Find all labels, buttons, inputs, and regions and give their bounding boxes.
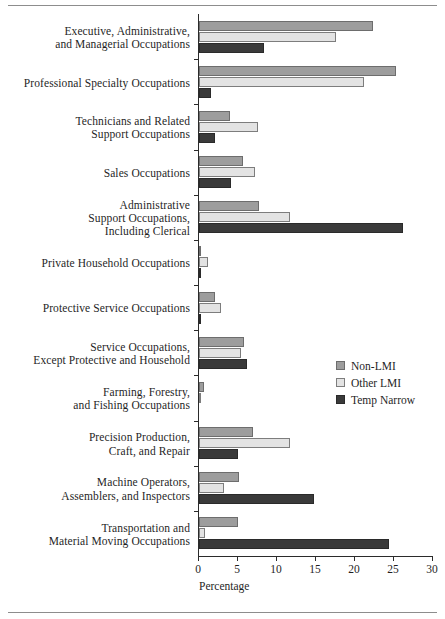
bar xyxy=(199,517,238,527)
category-label: Technicians and RelatedSupport Occupatio… xyxy=(5,115,190,142)
x-axis-tick-label: 0 xyxy=(183,563,213,575)
x-axis-tick xyxy=(276,556,277,561)
bar xyxy=(199,382,204,392)
bar xyxy=(199,268,201,278)
bar-group: Transportation andMaterial Moving Occupa… xyxy=(0,511,445,556)
y-axis-tick xyxy=(194,466,199,467)
y-axis-tick xyxy=(194,330,199,331)
legend-swatch-icon xyxy=(336,378,345,387)
bar-group: AdministrativeSupport Occupations,Includ… xyxy=(0,195,445,240)
legend-item: Other LMI xyxy=(336,375,415,390)
y-axis-tick xyxy=(194,240,199,241)
category-label-line: Except Protective and Household xyxy=(5,354,190,367)
bar xyxy=(199,472,239,482)
bar xyxy=(199,246,201,256)
category-label-line: Executive, Administrative, xyxy=(5,25,190,38)
category-label: Farming, Forestry,and Fishing Occupation… xyxy=(5,386,190,413)
bar xyxy=(199,393,201,403)
category-label: Machine Operators,Assemblers, and Inspec… xyxy=(5,476,190,503)
bar xyxy=(199,167,255,177)
bar xyxy=(199,156,243,166)
y-axis-tick xyxy=(194,59,199,60)
category-label: Precision Production,Craft, and Repair xyxy=(5,431,190,458)
bar-group: Sales Occupations xyxy=(0,150,445,195)
category-label-line: Machine Operators, xyxy=(5,476,190,489)
bar xyxy=(199,359,247,369)
x-axis-tick xyxy=(237,556,238,561)
bar-group: Protective Service Occupations xyxy=(0,285,445,330)
bar xyxy=(199,212,290,222)
legend-item: Non-LMI xyxy=(336,358,415,373)
x-axis-tick-label: 25 xyxy=(378,563,408,575)
y-axis-tick xyxy=(194,421,199,422)
bar xyxy=(199,348,241,358)
bar xyxy=(199,66,396,76)
category-label-line: Farming, Forestry, xyxy=(5,386,190,399)
bar-group: Technicians and RelatedSupport Occupatio… xyxy=(0,104,445,149)
bar xyxy=(199,449,238,459)
bar-group: Machine Operators,Assemblers, and Inspec… xyxy=(0,466,445,511)
category-label: AdministrativeSupport Occupations,Includ… xyxy=(5,199,190,239)
x-axis-tick xyxy=(198,556,199,561)
category-label-line: Technicians and Related xyxy=(5,115,190,128)
bar xyxy=(199,201,259,211)
x-axis-tick-label: 20 xyxy=(339,563,369,575)
category-label-line: Protective Service Occupations xyxy=(5,302,190,315)
category-label: Executive, Administrative,and Managerial… xyxy=(5,25,190,52)
x-axis-tick xyxy=(432,556,433,561)
bar xyxy=(199,178,231,188)
legend-item: Temp Narrow xyxy=(336,392,415,407)
category-label-line: Private Household Occupations xyxy=(5,257,190,270)
bar xyxy=(199,337,244,347)
x-axis-tick-label: 30 xyxy=(417,563,445,575)
bar xyxy=(199,133,215,143)
category-label-line: Transportation and xyxy=(5,522,190,535)
bar-group: Executive, Administrative,and Managerial… xyxy=(0,14,445,59)
category-label: Sales Occupations xyxy=(5,167,190,180)
y-axis-tick xyxy=(194,150,199,151)
bar xyxy=(199,427,253,437)
category-label-line: Precision Production, xyxy=(5,431,190,444)
bar xyxy=(199,494,314,504)
category-label-line: Support Occupations, xyxy=(5,212,190,225)
category-label-line: Sales Occupations xyxy=(5,167,190,180)
category-label: Private Household Occupations xyxy=(5,257,190,270)
legend-swatch-icon xyxy=(336,395,345,404)
bar-group: Professional Specialty Occupations xyxy=(0,59,445,104)
y-axis-tick xyxy=(194,511,199,512)
bar xyxy=(199,223,403,233)
category-label-line: Administrative xyxy=(5,199,190,212)
x-axis-tick-label: 10 xyxy=(261,563,291,575)
bar-chart: Executive, Administrative,and Managerial… xyxy=(0,14,445,574)
bar xyxy=(199,257,208,267)
bar xyxy=(199,303,221,313)
category-label-line: Assemblers, and Inspectors xyxy=(5,490,190,503)
y-axis-tick xyxy=(194,285,199,286)
x-axis-tick-label: 5 xyxy=(222,563,252,575)
x-axis-tick xyxy=(393,556,394,561)
y-axis-tick xyxy=(194,104,199,105)
bar xyxy=(199,77,364,87)
category-label-line: Support Occupations xyxy=(5,128,190,141)
category-label-line: Craft, and Repair xyxy=(5,445,190,458)
bar xyxy=(199,528,205,538)
bar-group: Precision Production,Craft, and Repair xyxy=(0,421,445,466)
category-label-line: Including Clerical xyxy=(5,225,190,238)
category-label-line: Material Moving Occupations xyxy=(5,535,190,548)
x-axis-title: Percentage xyxy=(199,580,249,592)
bottom-rule xyxy=(8,612,437,613)
legend-label: Temp Narrow xyxy=(351,394,415,406)
x-axis-tick xyxy=(354,556,355,561)
bar xyxy=(199,539,389,549)
bar xyxy=(199,122,258,132)
category-label-line: Professional Specialty Occupations xyxy=(5,77,190,90)
legend-label: Non-LMI xyxy=(351,360,396,372)
category-label-line: and Fishing Occupations xyxy=(5,399,190,412)
category-label: Service Occupations,Except Protective an… xyxy=(5,341,190,368)
bar xyxy=(199,438,290,448)
bar xyxy=(199,111,230,121)
category-label-line: Service Occupations, xyxy=(5,341,190,354)
x-axis-tick-label: 15 xyxy=(300,563,330,575)
category-label: Protective Service Occupations xyxy=(5,302,190,315)
bar xyxy=(199,21,373,31)
